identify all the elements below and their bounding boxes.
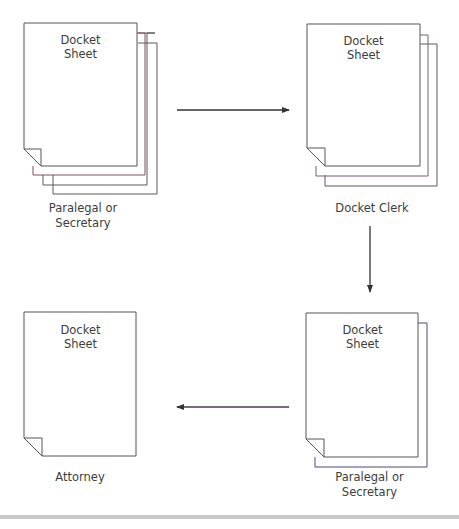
bottom-divider: [0, 515, 459, 519]
caption-line1: Attorney: [24, 470, 136, 485]
document-title: Docket Sheet: [24, 33, 137, 61]
caption-paralegal-secretary-1: Paralegal or Secretary: [28, 201, 138, 231]
document-title-line2: Sheet: [307, 48, 420, 62]
document-title: Docket Sheet: [307, 34, 420, 62]
caption-line1: Paralegal or: [312, 470, 427, 485]
document-title: Docket Sheet: [24, 323, 137, 351]
caption-line1: Docket Clerk: [312, 201, 432, 216]
document-title-line1: Docket: [306, 323, 419, 337]
caption-line1: Paralegal or: [28, 201, 138, 216]
document-title: Docket Sheet: [306, 323, 419, 351]
document-title-line2: Sheet: [306, 337, 419, 351]
caption-line2: Secretary: [312, 485, 427, 500]
docket-flow-diagram: Docket Sheet Paralegal or Secretary Dock…: [0, 0, 459, 529]
caption-line2: Secretary: [28, 216, 138, 231]
document-title-line2: Sheet: [24, 47, 137, 61]
document-title-line2: Sheet: [24, 337, 137, 351]
caption-attorney: Attorney: [24, 470, 136, 485]
caption-docket-clerk: Docket Clerk: [312, 201, 432, 216]
document-title-line1: Docket: [24, 33, 137, 47]
document-title-line1: Docket: [24, 323, 137, 337]
caption-paralegal-secretary-2: Paralegal or Secretary: [312, 470, 427, 500]
diagram-shapes: [0, 0, 459, 529]
document-title-line1: Docket: [307, 34, 420, 48]
